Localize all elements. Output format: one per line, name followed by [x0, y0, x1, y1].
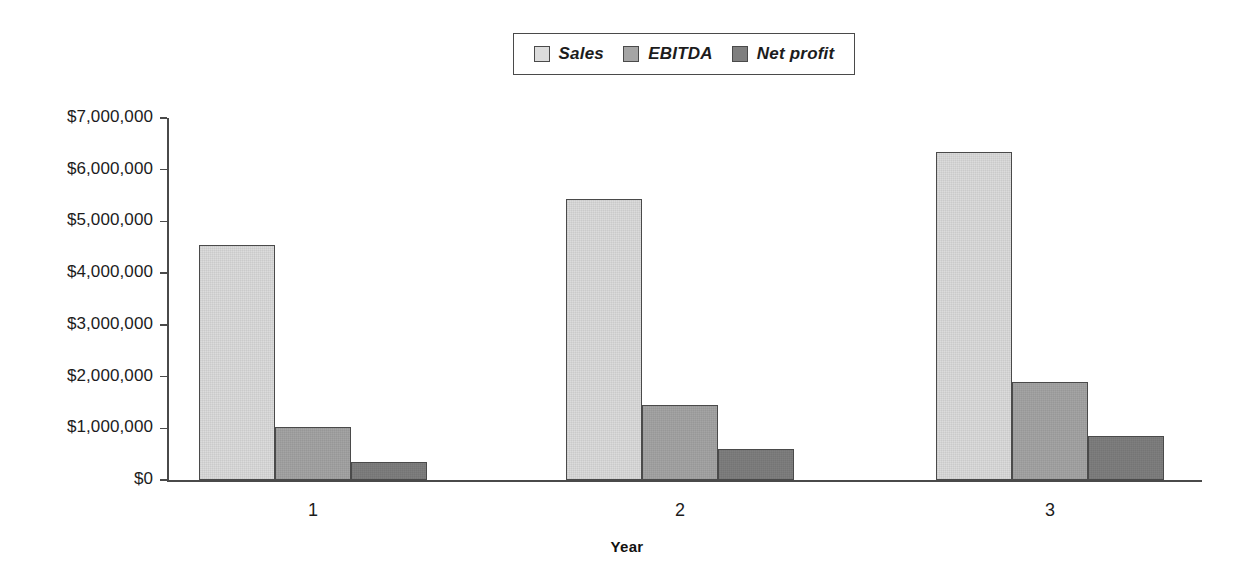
y-axis-tick: [160, 169, 167, 171]
y-axis-tick-label: $0: [0, 469, 153, 489]
x-axis-tick-label: 3: [1045, 500, 1055, 521]
bar-net-profit-year-2[interactable]: [718, 449, 794, 480]
y-axis-tick-label: $5,000,000: [0, 210, 153, 230]
bar-ebitda-year-3[interactable]: [1012, 382, 1088, 480]
x-axis-tick-label: 2: [675, 500, 685, 521]
x-axis-title: Year: [0, 538, 1254, 555]
legend-swatch-net-profit: [732, 46, 748, 62]
y-axis-tick-label: $6,000,000: [0, 159, 153, 179]
legend-label-sales: Sales: [559, 44, 604, 64]
bar-sales-year-3[interactable]: [936, 152, 1012, 480]
y-axis-tick-label: $2,000,000: [0, 366, 153, 386]
y-axis-tick: [160, 376, 167, 378]
bar-sales-year-2[interactable]: [566, 199, 642, 480]
bar-ebitda-year-1[interactable]: [275, 427, 351, 480]
y-axis-line: [167, 118, 169, 480]
y-axis-tick-label: $1,000,000: [0, 417, 153, 437]
chart-legend: Sales EBITDA Net profit: [513, 33, 855, 75]
y-axis-tick: [160, 324, 167, 326]
plot-area: [167, 118, 1202, 480]
legend-swatch-sales: [534, 46, 550, 62]
y-axis-tick: [160, 479, 167, 481]
y-axis-tick-label: $4,000,000: [0, 262, 153, 282]
bar-chart: Sales EBITDA Net profit $0$1,000,000$2,0…: [0, 0, 1254, 582]
legend-item-net-profit[interactable]: Net profit: [732, 44, 835, 64]
legend-label-ebitda: EBITDA: [648, 44, 712, 64]
y-axis-tick-label: $3,000,000: [0, 314, 153, 334]
bar-net-profit-year-3[interactable]: [1088, 436, 1164, 480]
y-axis-tick: [160, 428, 167, 430]
legend-item-ebitda[interactable]: EBITDA: [623, 44, 712, 64]
y-axis-tick: [160, 221, 167, 223]
legend-item-sales[interactable]: Sales: [534, 44, 604, 64]
y-axis-tick: [160, 272, 167, 274]
x-axis-tick-label: 1: [308, 500, 318, 521]
bar-sales-year-1[interactable]: [199, 245, 275, 480]
legend-label-net-profit: Net profit: [757, 44, 835, 64]
bar-net-profit-year-1[interactable]: [351, 462, 427, 480]
legend-swatch-ebitda: [623, 46, 639, 62]
y-axis-tick: [160, 117, 167, 119]
y-axis-tick-label: $7,000,000: [0, 107, 153, 127]
bar-ebitda-year-2[interactable]: [642, 405, 718, 480]
x-axis-line: [167, 480, 1202, 482]
